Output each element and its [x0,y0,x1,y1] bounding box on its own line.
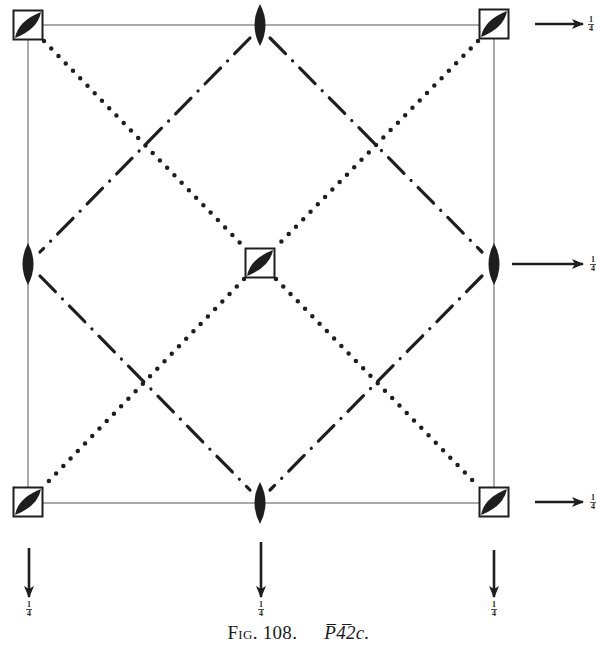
fourbar-axis-icon-bottom-right [480,488,509,517]
fourbar-axis-icon-top-left [14,11,43,40]
fraction-label: 1 4 [258,600,264,618]
svg-text:4: 4 [27,609,31,618]
figure-number: Fig. 108. [227,622,297,643]
twofold-axis-icon-top [255,4,266,46]
fraction-labels-bottom: 1 4 1 4 1 4 [26,600,497,618]
fourbar-axis-icon-bottom-left [14,488,43,517]
svg-text:1: 1 [27,600,31,609]
horizontal-height-arrows [512,24,583,502]
fraction-label: 1 4 [588,15,594,33]
fourbar-axis-icon-center [246,249,275,278]
svg-text:1: 1 [591,493,595,502]
fraction-label: 1 4 [26,600,32,618]
vertical-height-arrows [29,542,494,597]
fraction-label: 1 4 [590,255,596,273]
fraction-labels-right: 1 4 1 4 1 4 [588,15,596,511]
svg-text:4: 4 [259,609,263,618]
svg-text:1: 1 [259,600,263,609]
fraction-label: 1 4 [590,493,596,511]
svg-text:1: 1 [492,600,496,609]
svg-text:4: 4 [589,24,593,33]
twofold-axis-icon-bottom [255,482,266,524]
space-group-diagram: 1 4 1 4 1 4 1 4 1 4 1 4 [0,0,597,655]
svg-text:1: 1 [589,15,593,24]
svg-text:1: 1 [591,255,595,264]
svg-text:4: 4 [492,609,496,618]
twofold-axis-icon-left [23,243,34,285]
space-group-symbol: P̅4̅2c. [324,622,369,643]
fraction-label: 1 4 [491,600,497,618]
fourbar-axis-icon-top-right [480,10,509,39]
figure-caption: Fig. 108. P̅4̅2c. [0,622,597,644]
svg-text:4: 4 [591,502,595,511]
twofold-axis-icon-right [489,243,500,285]
svg-text:4: 4 [591,264,595,273]
